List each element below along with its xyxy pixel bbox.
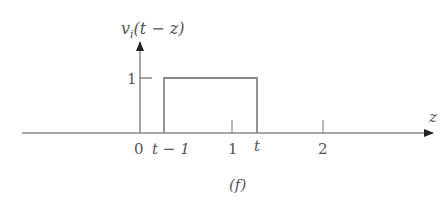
x-tick-label-origin: 0	[134, 140, 144, 158]
x-tick-label-t: t	[254, 137, 261, 155]
x-axis-label: z	[428, 108, 437, 126]
x-tick-label-1: 1	[228, 140, 238, 158]
y-axis-label: vi(t − z)	[121, 19, 185, 41]
x-tick-label-t-minus-1: t − 1	[152, 140, 190, 158]
x-tick-label-2: 2	[318, 140, 328, 158]
y-tick-label: 1	[127, 70, 137, 88]
figure-caption: (f)	[229, 176, 246, 194]
pulse-rectangle	[164, 78, 257, 133]
pulse-diagram: vi(t − z) z 1 0 t − 1 1 t 2 (f)	[0, 0, 447, 215]
